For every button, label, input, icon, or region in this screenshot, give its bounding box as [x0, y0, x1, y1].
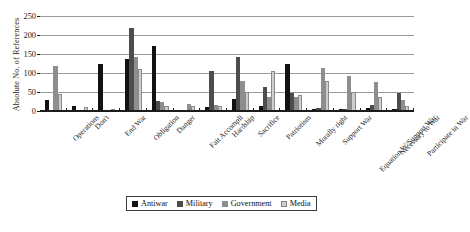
legend-item[interactable]: Media [281, 199, 311, 208]
bar-group [93, 16, 120, 111]
bar-group [200, 16, 227, 111]
bar-group [280, 16, 307, 111]
legend-label: Antiwar [141, 199, 168, 208]
legend-swatch-icon [177, 201, 183, 207]
bar [138, 69, 142, 111]
x-axis-line [40, 110, 414, 111]
bar [351, 92, 355, 111]
y-axis-title: Absolute No. of References [12, 5, 21, 125]
y-axis-tick-label: 150 [23, 50, 36, 59]
bar [58, 94, 62, 111]
bar [325, 81, 329, 111]
y-axis-tick-label: 250 [23, 12, 36, 21]
bar-group [254, 16, 281, 111]
y-axis-tick-mark [37, 111, 40, 112]
legend-label: Government [231, 199, 272, 208]
y-axis-tick-label: 100 [23, 69, 36, 78]
bar [98, 64, 102, 111]
legend-item[interactable]: Government [222, 199, 272, 208]
x-axis-label: Patriotism [284, 113, 312, 141]
x-axis-label: Sacrifice [256, 113, 281, 138]
y-axis-tick-label: 50 [28, 88, 36, 97]
bar-group [147, 16, 174, 111]
bar [245, 92, 249, 111]
legend-item[interactable]: Antiwar [132, 199, 168, 208]
gridline [40, 111, 414, 112]
x-axis-category-labels: OperationsDon'tEnd WarObligationDangerFa… [40, 113, 414, 183]
legend-swatch-icon [222, 201, 228, 207]
bar [271, 71, 275, 111]
bar-group [307, 16, 334, 111]
legend-item[interactable]: Military [177, 199, 213, 208]
bar-group [387, 16, 414, 111]
legend-swatch-icon [132, 201, 138, 207]
bar-group [361, 16, 388, 111]
legend-label: Media [290, 199, 311, 208]
y-axis-tick-label: 0 [32, 107, 36, 116]
bar-group [227, 16, 254, 111]
bar-group [334, 16, 361, 111]
bar-group [40, 16, 67, 111]
bar-groups [40, 16, 414, 111]
bar-group [120, 16, 147, 111]
x-axis-label: End War [123, 113, 148, 138]
bar-group [67, 16, 94, 111]
chart-legend: AntiwarMilitaryGovernmentMedia [126, 196, 317, 211]
bar-group [174, 16, 201, 111]
bar [298, 95, 302, 111]
legend-swatch-icon [281, 201, 287, 207]
plot-area: 050100150200250 [40, 16, 414, 111]
y-axis-tick-label: 200 [23, 31, 36, 40]
legend-label: Military [186, 199, 213, 208]
bar [378, 97, 382, 111]
